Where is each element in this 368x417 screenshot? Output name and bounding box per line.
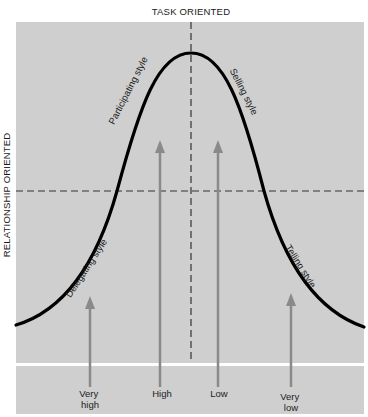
level-line: High <box>152 388 172 399</box>
level-high-label: High <box>152 388 172 399</box>
relationship-oriented-label: RELATIONSHIP ORIENTED <box>1 133 12 258</box>
level-low-label: Low <box>210 388 228 399</box>
level-line: low <box>284 402 298 413</box>
level-line: Low <box>210 388 228 399</box>
level-line: Very <box>280 391 299 402</box>
lower-panel <box>16 366 364 414</box>
level-line: Very <box>79 388 98 399</box>
level-very-high-label: Very high <box>79 388 101 410</box>
leadership-style-diagram: TASK ORIENTED RELATIONSHIP ORIENTED Part… <box>0 0 368 417</box>
task-oriented-label: TASK ORIENTED <box>152 6 230 17</box>
level-line: high <box>81 399 99 410</box>
upper-panel <box>16 22 364 363</box>
